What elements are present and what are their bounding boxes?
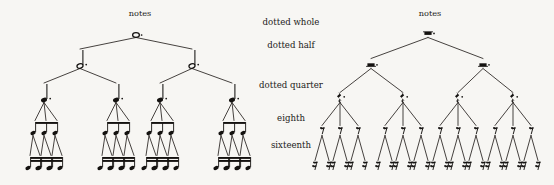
beam	[147, 160, 179, 162]
rest-hook-lower	[389, 165, 391, 167]
row-label-sixteenth: sixteenth	[271, 140, 312, 150]
note-rest-subdivision-figure: notes notes dotted wholedotted halfdotte…	[0, 0, 554, 185]
beam	[31, 160, 63, 162]
rest-hook	[438, 127, 440, 129]
rest-hook-upper	[518, 161, 520, 163]
rest-hook-upper	[349, 161, 351, 163]
rest-hook-upper	[445, 161, 447, 163]
augmentation-dot	[85, 64, 87, 66]
rest-hook	[474, 127, 476, 129]
rest-hook-lower	[466, 165, 468, 167]
rest-hook-upper	[504, 161, 506, 163]
rest-hook-lower	[393, 165, 395, 167]
rest-hook-lower	[444, 165, 446, 167]
beam	[219, 157, 251, 159]
rest-hook	[320, 127, 322, 129]
rest-hook-lower	[326, 165, 328, 167]
rest-hook-upper	[394, 161, 396, 163]
augmentation-dot	[237, 98, 239, 100]
rest-hook	[356, 127, 358, 129]
rest-hook-lower	[425, 165, 427, 167]
left-tree-title: notes	[129, 8, 152, 18]
row-label-dotted-quarter: dotted quarter	[259, 80, 324, 90]
rest-hook-upper	[486, 161, 488, 163]
rest-hook	[456, 127, 458, 129]
augmentation-dot	[49, 98, 51, 100]
rest-hook-upper	[363, 161, 365, 163]
rest-hook-lower	[362, 165, 364, 167]
rest-hook-lower	[503, 165, 505, 167]
rest-hook-lower	[344, 165, 346, 167]
rest-hook-upper	[467, 161, 469, 163]
rest-hook-lower	[462, 165, 464, 167]
augmentation-dot	[165, 98, 167, 100]
rest-hook	[419, 127, 421, 129]
beam	[219, 160, 251, 162]
rest-hook-upper	[536, 161, 538, 163]
augmentation-dot	[376, 64, 378, 66]
rest-hook-lower	[535, 165, 537, 167]
rest-hook-lower	[312, 165, 314, 167]
rest-hook-lower	[485, 165, 487, 167]
rest-hook-upper	[481, 161, 483, 163]
rest-hook-upper	[449, 161, 451, 163]
rest-hook-upper	[408, 161, 410, 163]
left-tree-title-text: notes	[129, 8, 152, 18]
rest-hook-upper	[390, 161, 392, 163]
rest-hook-lower	[330, 165, 332, 167]
rest-hook-upper	[463, 161, 465, 163]
rest-hook-lower	[499, 165, 501, 167]
rest-hook-upper	[327, 161, 329, 163]
rest-hook-lower	[407, 165, 409, 167]
right-tree-title: notes	[419, 8, 442, 18]
rest-hook-lower	[348, 165, 350, 167]
beam	[103, 160, 135, 162]
row-label-eighth: eighth	[277, 113, 305, 123]
rest-hook	[493, 127, 495, 129]
augmentation-dot	[406, 96, 408, 98]
rest-hook	[511, 127, 513, 129]
beam	[147, 157, 179, 159]
rest-hook-upper	[522, 161, 524, 163]
rest-hook	[338, 127, 340, 129]
augmentation-dot	[141, 34, 143, 36]
rest-hook	[401, 127, 403, 129]
beam	[103, 157, 135, 159]
right-tree-title-text: notes	[419, 8, 442, 18]
rest-block	[479, 63, 486, 66]
rest-hook-upper	[500, 161, 502, 163]
augmentation-dot	[516, 96, 518, 98]
rest-hook-lower	[521, 165, 523, 167]
rest-hook-upper	[426, 161, 428, 163]
rest-hook	[383, 127, 385, 129]
augmentation-dot	[461, 96, 463, 98]
rest-hook-lower	[430, 165, 432, 167]
augmentation-dot	[343, 96, 345, 98]
rest-hook-lower	[411, 165, 413, 167]
augmentation-dot	[197, 64, 199, 66]
augmentation-dot	[488, 64, 490, 66]
rest-hook-lower	[448, 165, 450, 167]
rest-hook-upper	[431, 161, 433, 163]
rest-hook-upper	[331, 161, 333, 163]
rest-hook-lower	[375, 165, 377, 167]
rest-block	[367, 63, 374, 66]
rest-block	[424, 32, 431, 35]
rest-hook-upper	[412, 161, 414, 163]
rest-hook	[529, 127, 531, 129]
rest-hook-lower	[517, 165, 519, 167]
beam	[31, 157, 63, 159]
rest-hook-upper	[376, 161, 378, 163]
row-label-dotted-half: dotted half	[267, 40, 315, 50]
rest-hook-upper	[313, 161, 315, 163]
augmentation-dot	[121, 98, 123, 100]
augmentation-dot	[433, 33, 435, 35]
rest-hook-upper	[345, 161, 347, 163]
row-label-dotted-whole: dotted whole	[263, 17, 320, 27]
figure-background	[0, 0, 554, 185]
rest-hook-lower	[480, 165, 482, 167]
